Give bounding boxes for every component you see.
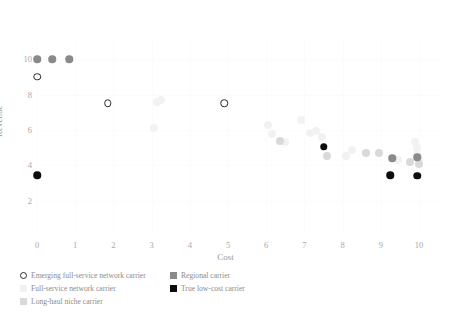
y-axis-label: Revenue (0, 106, 4, 138)
legend-item-label: True low-cost carrier (181, 284, 245, 293)
y-tick-label: 4 (14, 160, 32, 170)
legend-swatch-icon (170, 272, 177, 279)
legend-column-left: Emerging full-service network carrierFul… (20, 270, 146, 309)
legend-swatch-icon (20, 285, 27, 292)
data-point (318, 133, 326, 141)
data-point (33, 73, 41, 81)
gridline-vertical (419, 38, 420, 236)
data-point (220, 100, 228, 108)
data-point (150, 124, 158, 132)
x-tick-label: 7 (302, 240, 306, 250)
legend-item-label: Full-service network carrier (31, 284, 116, 293)
gridline-horizontal (37, 201, 442, 202)
gridline-horizontal (37, 130, 442, 131)
legend-item[interactable]: Long-haul niche carrier (20, 296, 146, 307)
legend-swatch-icon (20, 298, 27, 305)
legend-item-label: Emerging full-service network carrier (31, 271, 146, 280)
gridline-horizontal (37, 165, 442, 166)
y-tick-label: 8 (14, 90, 32, 100)
scatter-chart: 012345678910 246810 Cost Revenue Emergin… (0, 0, 451, 315)
data-point (406, 158, 414, 166)
data-point (33, 171, 41, 179)
gridline-vertical (304, 38, 305, 236)
gridline-vertical (343, 38, 344, 236)
legend-item[interactable]: Regional carrier (170, 270, 245, 281)
y-tick-label: 2 (14, 196, 32, 206)
data-point (362, 149, 370, 157)
gridline-horizontal (37, 95, 442, 96)
legend-item-label: Regional carrier (181, 271, 230, 280)
data-point (49, 55, 57, 63)
data-point (104, 100, 112, 108)
gridline-vertical (266, 38, 267, 236)
data-point (268, 130, 276, 138)
x-tick-label: 10 (415, 240, 424, 250)
gridline-vertical (37, 38, 38, 236)
x-tick-label: 2 (111, 240, 115, 250)
x-tick-label: 4 (188, 240, 192, 250)
data-point (276, 137, 284, 145)
gridline-vertical (75, 38, 76, 236)
data-point (323, 152, 331, 160)
gridline-horizontal (37, 59, 442, 60)
data-point (157, 96, 165, 104)
x-tick-label: 8 (341, 240, 345, 250)
x-axis-label: Cost (0, 252, 451, 262)
legend-item-label: Long-haul niche carrier (31, 297, 103, 306)
data-point (375, 149, 383, 157)
y-tick-label: 6 (14, 125, 32, 135)
data-point (297, 116, 305, 124)
data-point (387, 171, 395, 179)
legend-item[interactable]: Full-service network carrier (20, 283, 146, 294)
legend-swatch-icon (170, 285, 177, 292)
data-point (413, 172, 421, 180)
data-point (413, 154, 421, 162)
gridline-vertical (113, 38, 114, 236)
x-tick-label: 1 (73, 240, 77, 250)
legend-item[interactable]: True low-cost carrier (170, 283, 245, 294)
data-point (348, 146, 356, 154)
data-point (264, 121, 272, 129)
x-tick-label: 5 (226, 240, 230, 250)
legend-swatch-icon (20, 272, 27, 279)
gridline-vertical (228, 38, 229, 236)
data-point (66, 55, 74, 63)
legend-item[interactable]: Emerging full-service network carrier (20, 270, 146, 281)
legend-column-right: Regional carrierTrue low-cost carrier (170, 270, 245, 296)
x-tick-label: 3 (149, 240, 153, 250)
data-point (33, 55, 41, 63)
y-tick-label: 10 (14, 54, 32, 64)
data-point (320, 143, 328, 151)
plot-area (37, 38, 442, 236)
gridline-vertical (381, 38, 382, 236)
gridline-vertical (190, 38, 191, 236)
x-tick-label: 0 (35, 240, 39, 250)
x-tick-label: 9 (379, 240, 383, 250)
x-tick-label: 6 (264, 240, 268, 250)
gridline-vertical (152, 38, 153, 236)
data-point (389, 154, 397, 162)
